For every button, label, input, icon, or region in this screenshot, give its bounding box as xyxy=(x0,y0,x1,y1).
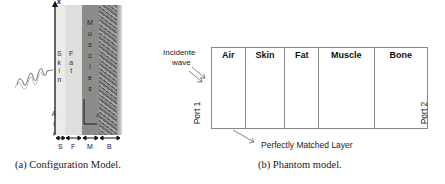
region-muscle: Muscle xyxy=(319,48,374,128)
caption-b: (b) Phantom model. xyxy=(258,159,342,170)
port-2-label: Port 2 xyxy=(419,102,429,125)
pml-label: Perfectly Matched Layer xyxy=(261,140,353,150)
region-air: Air xyxy=(212,48,246,128)
phantom-domain: Air Skin Fat Muscle Bone xyxy=(211,47,428,129)
region-skin: Skin xyxy=(246,48,286,128)
port-1-label: Port 1 xyxy=(192,102,202,125)
region-fat: Fat xyxy=(285,48,319,128)
